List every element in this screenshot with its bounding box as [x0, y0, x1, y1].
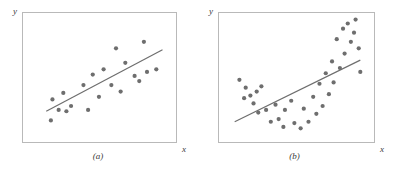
scatter-point: [97, 95, 101, 99]
scatter-point: [256, 110, 260, 114]
scatter-point: [321, 104, 325, 108]
scatter-point: [330, 59, 334, 63]
scatter-point: [137, 79, 141, 83]
regression-line: [46, 50, 162, 112]
scatter-point: [119, 90, 123, 94]
panel-b-y-axis-label: y: [209, 7, 213, 16]
scatter-point: [269, 120, 273, 124]
scatter-point: [133, 74, 137, 78]
scatter-point: [283, 108, 287, 112]
scatter-point: [335, 37, 339, 41]
scatter-point: [349, 40, 353, 44]
scatter-point: [358, 70, 362, 74]
scatter-point: [353, 17, 357, 21]
panel-b-plot-frame: [218, 12, 375, 143]
scatter-point: [281, 125, 285, 129]
scatter-point: [292, 121, 296, 125]
panel-b-caption: (b): [196, 152, 393, 161]
scatter-point: [314, 112, 318, 116]
panel-a: y x (a): [0, 0, 196, 170]
scatter-point: [332, 80, 336, 84]
scatter-point: [273, 103, 277, 107]
scatter-point: [86, 108, 90, 112]
scatter-point: [244, 86, 248, 90]
panel-a-plot-frame: [22, 12, 177, 143]
scatter-point: [91, 72, 95, 76]
scatter-point: [289, 99, 293, 103]
panel-a-caption: (a): [0, 152, 196, 161]
scatter-point: [299, 126, 303, 130]
scatter-point: [277, 117, 281, 121]
scatter-point: [49, 118, 53, 122]
scatter-point: [338, 66, 342, 70]
scatter-point: [142, 40, 146, 44]
scatter-point: [317, 82, 321, 86]
scatter-point: [352, 31, 356, 35]
scatter-point: [145, 70, 149, 74]
scatter-point: [248, 93, 252, 97]
scatter-point: [61, 91, 65, 95]
scatter-point: [237, 78, 241, 82]
scatter-point: [327, 92, 331, 96]
panel-b: y x (b): [196, 0, 393, 170]
panel-b-scatter-plot: [219, 13, 376, 144]
panel-a-scatter-plot: [23, 13, 178, 144]
scatter-point: [357, 46, 361, 50]
scatter-point: [81, 83, 85, 87]
scatter-point: [306, 120, 310, 124]
scatter-point: [324, 71, 328, 75]
scatter-point: [311, 95, 315, 99]
scatter-point: [102, 67, 106, 71]
scatter-point: [341, 27, 345, 31]
scatter-point: [255, 90, 259, 94]
figure-container: y x (a) y x (b): [0, 0, 393, 170]
scatter-point: [343, 52, 347, 56]
scatter-point: [123, 61, 127, 65]
scatter-point: [50, 97, 54, 101]
scatter-point: [154, 67, 158, 71]
scatter-point: [57, 108, 61, 112]
scatter-point: [109, 83, 113, 87]
scatter-point: [242, 96, 246, 100]
scatter-point: [264, 108, 268, 112]
panel-a-y-axis-label: y: [13, 7, 17, 16]
scatter-point: [251, 101, 255, 105]
scatter-point: [302, 107, 306, 111]
scatter-point: [346, 21, 350, 25]
scatter-point: [114, 46, 118, 50]
scatter-point: [259, 84, 263, 88]
scatter-point: [69, 104, 73, 108]
scatter-point: [64, 109, 68, 113]
